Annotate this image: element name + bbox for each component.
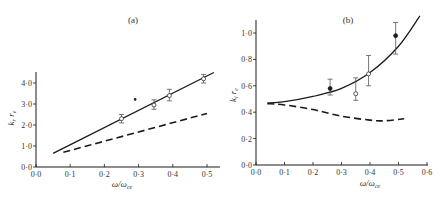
open-data-point [354,92,358,96]
figure: 0·00·10·20·30·40·50·01·02·03·04·0 0·00·1… [0,0,443,197]
x-tick-label: 0·5 [393,168,404,177]
filled-data-point [394,34,398,38]
x-tick-label: 0·1 [65,170,76,179]
y-tick-label: 0·4 [241,108,252,117]
y-tick-label: 0·2 [241,135,252,144]
open-data-point [202,77,206,81]
x-tick-label: 0·5 [202,170,213,179]
y-tick-label: 0·0 [21,163,32,172]
x-tick-label: 0·4 [365,168,376,177]
filled-data-point [328,86,332,90]
panel-b-title: (b) [343,15,354,25]
panel-a-xlabel: ω/ωce [112,179,133,190]
panel-a-ylabel: kr re [6,110,17,125]
y-tick-label: 0·6 [241,82,252,91]
y-tick-label: 4·0 [21,79,32,88]
x-tick-label: 0·0 [251,168,262,177]
x-tick-label: 0·3 [133,170,144,179]
x-tick-label: 0·2 [308,168,319,177]
open-data-point [167,94,171,98]
y-tick-label: 0·0 [241,161,252,170]
y-tick-label: 0·8 [241,55,252,64]
x-tick-label: 0·3 [336,168,347,177]
open-data-point [367,72,371,76]
y-tick-label: 1·0 [21,142,32,151]
panel-b-ylabel: ki re [228,88,239,102]
solid-theory-curve [267,16,419,103]
solid-theory-curve [53,73,214,154]
y-tick-label: 1·0 [241,29,252,38]
dashed-theory-curve [63,113,207,152]
panel-a-chart: 0·00·10·20·30·40·50·01·02·03·04·0 [21,72,220,179]
x-tick-label: 0·0 [31,170,42,179]
x-tick-label: 0·1 [279,168,290,177]
y-tick-label: 3·0 [21,100,32,109]
dashed-theory-curve [267,104,404,121]
panel-b-xlabel: ω/ωce [360,178,381,189]
panel-b-chart: 0·00·10·20·30·40·50·60·00·20·40·60·81·0 [241,16,432,177]
open-data-point [120,117,124,121]
x-tick-label: 0·6 [422,168,433,177]
x-tick-label: 0·4 [167,170,178,179]
x-tick-label: 0·2 [99,170,110,179]
open-data-point [152,103,156,107]
stray-dot [134,98,137,101]
y-tick-label: 2·0 [21,121,32,130]
panel-a-title: (a) [128,15,138,25]
